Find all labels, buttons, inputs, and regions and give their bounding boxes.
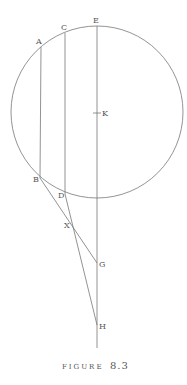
segment-AB <box>40 47 41 178</box>
label-E: E <box>93 16 99 25</box>
label-D: D <box>58 191 64 200</box>
label-H: H <box>99 322 106 331</box>
label-A: A <box>35 37 42 46</box>
caption-number: 8.3 <box>110 360 129 371</box>
label-X: X <box>64 221 70 230</box>
geometry-figure: A C E K B D X G H FIGURE 8.3 <box>0 0 187 385</box>
label-G: G <box>99 260 105 269</box>
caption-word: FIGURE <box>62 363 104 371</box>
segment-DH <box>65 194 97 325</box>
label-B: B <box>33 175 39 184</box>
label-C: C <box>61 23 67 32</box>
label-K: K <box>102 109 109 118</box>
